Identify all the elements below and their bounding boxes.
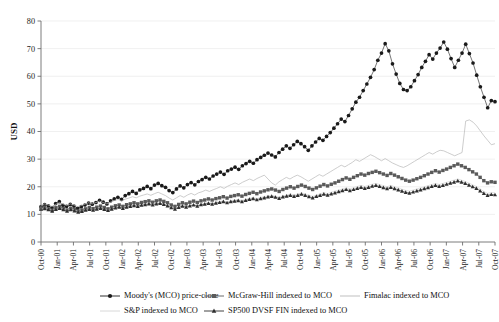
x-tick-label: Oct-07 <box>491 249 499 270</box>
marker-point <box>326 184 329 187</box>
marker-point <box>460 164 463 167</box>
x-tick-label: Oct-05 <box>361 249 370 270</box>
marker-point <box>337 180 340 183</box>
x-tick-label: Jan-03 <box>183 249 192 269</box>
x-tick-label: Jul-04 <box>280 249 289 268</box>
x-tick-label: Oct-03 <box>232 249 241 270</box>
marker-point <box>427 53 431 57</box>
marker-point <box>389 172 392 175</box>
x-tick-label: Jan-04 <box>248 249 257 269</box>
marker-point <box>383 42 387 46</box>
marker-point <box>255 192 258 195</box>
marker-point <box>471 170 474 173</box>
x-tick-label: Jan-05 <box>313 249 322 269</box>
y-tick-label: 80 <box>27 17 35 26</box>
marker-point <box>402 88 406 92</box>
marker-point <box>405 89 409 93</box>
marker-point <box>248 192 251 195</box>
marker-point <box>431 57 435 61</box>
marker-point <box>419 176 422 179</box>
marker-point <box>482 179 485 182</box>
axes: 01020304050607080Oct-00Jan-01Apr-01Jul-0… <box>9 17 499 271</box>
marker-point <box>423 174 426 177</box>
marker-point <box>475 172 478 175</box>
marker-point <box>274 188 277 191</box>
marker-point <box>318 184 321 187</box>
y-tick-label: 60 <box>27 72 35 81</box>
marker-point <box>292 143 296 147</box>
marker-point <box>241 164 245 168</box>
marker-point <box>296 185 299 188</box>
marker-point <box>457 58 461 62</box>
y-tick-label: 0 <box>31 238 35 247</box>
marker-point <box>142 187 146 191</box>
marker-point <box>208 177 212 181</box>
marker-point <box>453 66 457 70</box>
marker-point <box>116 195 120 199</box>
x-tick-label: Jul-07 <box>475 249 484 268</box>
marker-point <box>490 180 493 183</box>
marker-point <box>259 190 262 193</box>
marker-point <box>452 164 455 167</box>
marker-point <box>197 180 201 184</box>
marker-point <box>317 137 321 141</box>
marker-point <box>456 162 459 165</box>
marker-point <box>244 193 247 196</box>
marker-point <box>167 189 171 193</box>
marker-point <box>493 100 497 104</box>
legend-label: SP500 DVSF FIN indexed to MCO <box>228 306 347 315</box>
marker-point <box>467 168 470 171</box>
marker-point <box>196 201 199 204</box>
marker-point <box>240 194 243 197</box>
x-tick-label: Apr-01 <box>69 249 78 271</box>
marker-point <box>270 194 274 198</box>
marker-point <box>493 181 496 184</box>
x-tick-label: Apr-07 <box>459 249 468 271</box>
marker-point <box>222 172 226 176</box>
marker-point <box>266 188 269 191</box>
marker-point <box>285 186 288 189</box>
marker-point <box>409 85 413 89</box>
marker-point <box>273 155 277 159</box>
marker-point <box>160 184 164 188</box>
marker-point <box>138 188 142 192</box>
marker-point <box>322 183 325 186</box>
marker-point <box>277 151 281 155</box>
marker-point <box>359 172 362 175</box>
marker-point <box>218 196 221 199</box>
marker-point <box>352 176 355 179</box>
marker-point <box>378 171 381 174</box>
series-line-2 <box>41 120 495 207</box>
marker-point <box>295 140 299 144</box>
marker-point <box>303 145 307 149</box>
marker-point <box>182 186 186 190</box>
legend-label: McGraw-Hill indexed to MCO <box>228 291 332 300</box>
marker-point <box>361 89 365 93</box>
y-axis-label: USD <box>9 122 19 141</box>
y-tick-label: 30 <box>27 155 35 164</box>
chart-container: 01020304050607080Oct-00Jan-01Apr-01Jul-0… <box>0 0 499 322</box>
marker-point <box>486 181 489 184</box>
marker-point <box>333 181 336 184</box>
x-tick-label: Apr-02 <box>134 249 143 271</box>
marker-point <box>252 161 256 165</box>
marker-point <box>153 183 157 187</box>
x-tick-label: Jul-05 <box>345 249 354 268</box>
marker-point <box>404 178 407 181</box>
marker-point <box>449 166 452 169</box>
marker-point <box>307 186 310 189</box>
marker-point <box>310 144 314 148</box>
marker-point <box>292 186 295 189</box>
marker-point <box>181 201 184 204</box>
marker-point <box>164 185 168 189</box>
marker-point <box>411 178 414 181</box>
marker-point <box>306 148 310 152</box>
y-tick-label: 20 <box>27 183 35 192</box>
x-tick-label: Oct-04 <box>296 249 305 270</box>
x-tick-label: Apr-05 <box>329 249 338 271</box>
marker-point <box>413 79 417 83</box>
marker-point <box>416 73 420 77</box>
marker-point <box>486 106 490 110</box>
marker-point <box>171 191 175 195</box>
x-tick-label: Oct-06 <box>426 249 435 270</box>
